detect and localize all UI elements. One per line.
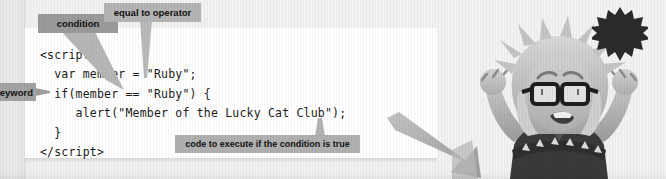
callout-condition-label: condition: [57, 18, 100, 29]
callout-code-to-execute-label: code to execute if the condition is true: [185, 139, 350, 149]
page-bottom-edge: [0, 171, 666, 179]
screenshot-page: <script> var member = "Ruby"; if(member …: [0, 0, 666, 179]
callout-code-to-execute: code to execute if the condition is true: [175, 135, 360, 153]
equal-operator-callout-tail: [138, 20, 154, 80]
callout-equal-to-operator-label: equal to operator: [114, 7, 192, 18]
callout-keyword: keyword: [0, 83, 36, 101]
callout-keyword-label: keyword: [0, 87, 33, 98]
chapter-number-badge: [592, 6, 648, 62]
callout-equal-to-operator: equal to operator: [104, 3, 201, 22]
